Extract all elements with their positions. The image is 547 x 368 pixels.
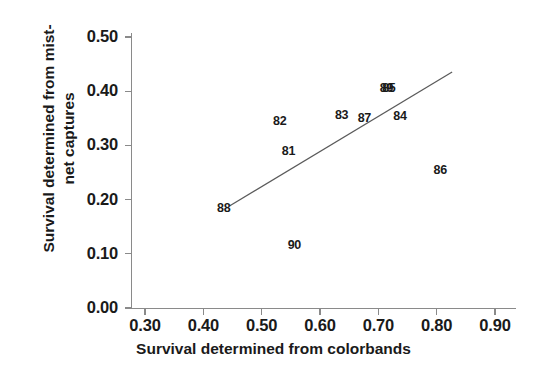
x-tick-mark: [494, 308, 495, 315]
y-tick-label-wrap: 0.40: [52, 81, 118, 101]
x-axis-title: Survival determined from colorbands: [0, 340, 547, 358]
x-tick-label: 0.30: [115, 316, 175, 335]
x-tick-label: 0.70: [348, 316, 408, 335]
x-axis-line: [131, 308, 516, 309]
y-tick-label: 0.30: [87, 135, 118, 154]
y-tick-label-wrap: 0.10: [52, 244, 118, 264]
data-point-label: 84: [393, 109, 406, 123]
y-tick-label: 0.00: [87, 298, 118, 317]
y-tick-label-wrap: 0.50: [52, 27, 118, 47]
x-tick-label: 0.40: [173, 316, 233, 335]
x-tick-mark: [144, 308, 145, 315]
data-point-label: 86: [434, 163, 447, 177]
data-point-label: 85: [382, 81, 395, 95]
y-tick-label: 0.50: [87, 27, 118, 46]
data-point-label: 88: [217, 201, 230, 215]
data-point-label: 87: [358, 111, 371, 125]
y-tick-label-wrap: 0.20: [52, 190, 118, 210]
y-tick-mark: [125, 145, 132, 146]
y-axis-line: [131, 33, 132, 309]
x-tick-label: 0.80: [407, 316, 467, 335]
x-tick-label: 0.60: [290, 316, 350, 335]
x-tick-mark: [261, 308, 262, 315]
y-tick-label: 0.40: [87, 81, 118, 100]
scatter-plot-figure: Survival determined from mist-net captur…: [0, 0, 547, 368]
y-tick-label-wrap: 0.00: [52, 298, 118, 318]
y-tick-mark: [125, 307, 132, 308]
y-tick-label-wrap: 0.30: [52, 135, 118, 155]
data-point-label: 90: [288, 238, 301, 252]
data-point-label: 82: [273, 114, 286, 128]
x-tick-label: 0.50: [232, 316, 292, 335]
y-tick-label: 0.10: [87, 244, 118, 263]
x-tick-label: 0.90: [465, 316, 525, 335]
x-tick-mark: [203, 308, 204, 315]
y-tick-mark: [125, 253, 132, 254]
x-tick-mark: [378, 308, 379, 315]
data-point-label: 81: [282, 144, 295, 158]
y-tick-label: 0.20: [87, 190, 118, 209]
data-point-label: 83: [335, 108, 348, 122]
y-tick-mark: [125, 199, 132, 200]
y-tick-mark: [125, 91, 132, 92]
x-tick-mark: [319, 308, 320, 315]
x-tick-mark: [436, 308, 437, 315]
y-tick-mark: [125, 36, 132, 37]
